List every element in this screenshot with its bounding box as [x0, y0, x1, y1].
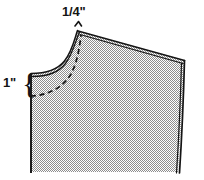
apex-caret-icon — [75, 22, 82, 27]
depth-label: 1" — [3, 76, 16, 89]
depth-brace: { — [22, 68, 36, 98]
seam-allowance-label: 1/4" — [62, 5, 85, 18]
pattern-diagram: 1/4" 1" { — [0, 0, 204, 180]
